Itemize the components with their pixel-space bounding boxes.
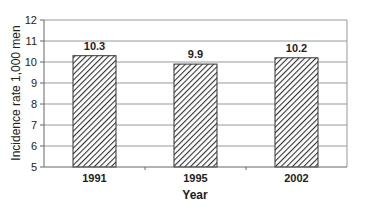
x-axis-title: Year <box>182 188 208 202</box>
x-tick-label: 1991 <box>82 172 106 184</box>
y-tick-label: 7 <box>31 119 37 131</box>
y-tick-label: 9 <box>31 77 37 89</box>
labels: 5678910111210.319919.9199510.22002 <box>25 14 309 184</box>
x-tick-label: 1995 <box>183 172 207 184</box>
value-label: 10.3 <box>84 40 105 52</box>
bar-1991 <box>73 56 116 167</box>
y-tick-label: 11 <box>26 35 37 47</box>
y-tick-label: 12 <box>25 14 37 26</box>
y-tick-label: 8 <box>31 98 37 110</box>
x-tick-label: 2002 <box>284 172 308 184</box>
value-label: 10.2 <box>286 42 307 54</box>
value-label: 9.9 <box>188 48 203 60</box>
y-tick-label: 5 <box>31 161 37 173</box>
y-axis-title: Incidence rate 1,000 men <box>9 25 23 160</box>
bar-2002 <box>275 58 318 167</box>
y-tick-label: 10 <box>25 56 37 68</box>
bars <box>73 56 318 167</box>
y-tick-label: 6 <box>31 140 37 152</box>
bar-1995 <box>174 64 217 167</box>
bar-chart: 5678910111210.319919.9199510.22002 Year … <box>0 0 382 216</box>
